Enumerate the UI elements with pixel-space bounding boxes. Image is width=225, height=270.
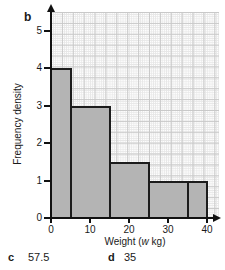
y-tick-label-0: 0 <box>26 213 42 223</box>
y-axis-line <box>50 10 52 220</box>
x-tick-label-30: 30 <box>157 225 179 235</box>
part-label: b <box>24 10 31 24</box>
x-tick-30 <box>167 219 169 223</box>
y-axis-title: Frequency density <box>12 83 23 165</box>
x-axis-line <box>50 217 214 219</box>
x-axis-title: Weight (w kg) <box>60 236 210 247</box>
histogram-bar-25-35 <box>148 181 189 220</box>
worksheet-figure: b 012345010203040 Frequency density Weig… <box>0 0 225 270</box>
answer-d-value: 35 <box>124 251 136 263</box>
x-axis-arrow-icon <box>213 214 221 222</box>
x-tick-10 <box>89 219 91 223</box>
x-tick-label-20: 20 <box>118 225 140 235</box>
x-tick-label-0: 0 <box>40 225 62 235</box>
histogram-bar-5-15 <box>70 106 111 220</box>
answer-c-value: 57.5 <box>28 251 49 263</box>
y-tick-label-3: 3 <box>26 101 42 111</box>
histogram-bar-0-5 <box>50 68 72 219</box>
x-axis-title-prefix: Weight ( <box>105 236 142 247</box>
x-axis-title-suffix: kg) <box>149 236 166 247</box>
x-tick-40 <box>206 219 208 223</box>
answer-c-label: c <box>8 251 14 263</box>
x-tick-20 <box>128 219 130 223</box>
histogram-bar-15-25 <box>109 162 150 219</box>
y-tick-label-1: 1 <box>26 176 42 186</box>
y-axis-arrow-icon <box>47 4 55 12</box>
histogram-bar-35-40 <box>187 181 209 220</box>
x-tick-label-10: 10 <box>79 225 101 235</box>
x-tick-label-40: 40 <box>196 225 218 235</box>
x-axis-title-variable: w <box>142 236 149 247</box>
answer-d-label: d <box>108 251 115 263</box>
y-tick-label-4: 4 <box>26 63 42 73</box>
y-tick-label-5: 5 <box>26 26 42 36</box>
y-tick-label-2: 2 <box>26 138 42 148</box>
